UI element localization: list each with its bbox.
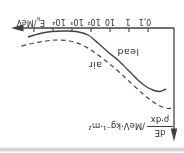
x-tick-label-3: 10² bbox=[87, 17, 100, 26]
x-axis-title: Ek/MeV bbox=[16, 16, 45, 27]
x-tick-label-0: 0,1 bbox=[139, 17, 152, 26]
x-tick-label-4: 10³ bbox=[70, 17, 83, 26]
x-tick-label-2: 10 bbox=[105, 17, 115, 26]
x-tick-label-5: 10⁴ bbox=[52, 17, 65, 26]
x-axis-subscript: k bbox=[36, 16, 39, 23]
fraction-denominator: ρ·dx bbox=[151, 115, 170, 125]
fraction-bar bbox=[147, 126, 173, 127]
x-tick-label-1: 1 bbox=[125, 17, 130, 26]
air-curve bbox=[18, 40, 171, 109]
fraction-numerator: dE bbox=[155, 128, 166, 138]
y-axis-fraction: dE ρ·dx bbox=[147, 115, 173, 138]
scanned-figure: Ek/MeV dE ρ·dx /MeV·kg⁻¹·m² lead air 0,1… bbox=[0, 0, 184, 153]
y-axis-title: dE ρ·dx /MeV·kg⁻¹·m² bbox=[88, 115, 173, 138]
x-axis-unit: /MeV bbox=[16, 18, 36, 27]
scan-artifact-band bbox=[0, 148, 184, 152]
stopping-power-chart: Ek/MeV dE ρ·dx /MeV·kg⁻¹·m² lead air 0,1… bbox=[0, 0, 184, 153]
y-axis-unit: /MeV·kg⁻¹·m² bbox=[88, 121, 145, 131]
series-label-air: air bbox=[88, 60, 102, 71]
series-label-lead: lead bbox=[117, 47, 139, 58]
x-axis-symbol: E bbox=[40, 18, 45, 27]
